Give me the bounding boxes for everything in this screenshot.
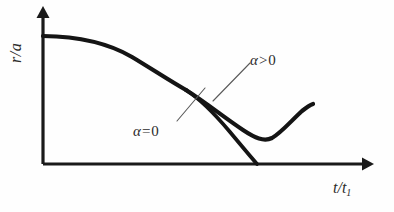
curve-shared-segment — [43, 36, 186, 90]
alpha-symbol: α — [133, 123, 141, 139]
greater-than-operator: > — [258, 52, 268, 68]
annotation-alpha-zero: α=0 — [133, 124, 159, 139]
curve-alpha-zero — [186, 90, 257, 164]
annotation-alpha-positive: α>0 — [250, 53, 276, 68]
alpha-zero-value: 0 — [151, 123, 159, 139]
y-axis-label: r/a — [8, 43, 24, 63]
figure-container: r/a t/t1 α>0 α=0 — [0, 0, 394, 212]
x-axis-label: t/t1 — [333, 180, 351, 198]
curve-alpha-positive — [186, 90, 313, 140]
alpha-symbol: α — [250, 52, 258, 68]
x-axis-label-subscript: 1 — [346, 187, 351, 198]
x-axis-label-main: t/t — [333, 179, 346, 196]
leader-line-alpha-positive — [213, 63, 250, 101]
y-axis-arrowhead — [37, 6, 50, 18]
x-axis-arrowhead — [362, 158, 374, 171]
alpha-positive-value: 0 — [268, 52, 276, 68]
equals-operator: = — [141, 123, 151, 139]
